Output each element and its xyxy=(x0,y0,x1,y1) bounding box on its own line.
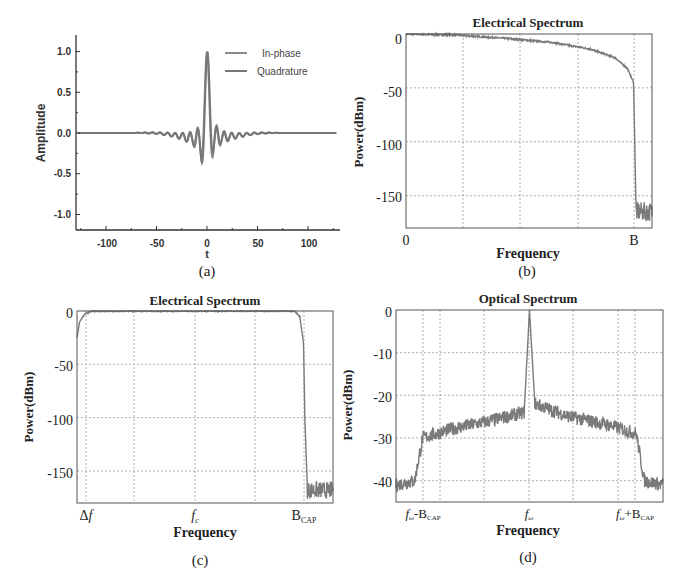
panel-d-xtick-right: fω+BCAP xyxy=(616,506,654,522)
panel-d-grid xyxy=(396,310,663,502)
panel-b-title: Electrical Spectrum xyxy=(473,15,584,30)
panel-c-xtick-fc: fc xyxy=(191,508,199,525)
panel-c-xlabel: Frequency xyxy=(173,525,237,540)
panel-b-ytick: -150 xyxy=(376,190,402,205)
panel-a-xtick: 50 xyxy=(252,238,264,249)
panel-a-ytick: -0.5 xyxy=(54,168,72,179)
panel-d-traces xyxy=(396,310,663,491)
panel-b-ytick: 0 xyxy=(395,32,402,47)
panel-a-ylabel: Amplitude xyxy=(34,103,48,162)
panel-c-ytick: -100 xyxy=(47,413,73,428)
panel-c-frame xyxy=(77,311,333,503)
panel-a-caption: (a) xyxy=(199,263,216,280)
panel-d-xtick-left: fω-BCAP xyxy=(405,506,440,522)
panel-b-ylabel: Power(dBm) xyxy=(351,97,366,168)
panel-b-xtick-b: B xyxy=(629,233,638,248)
panel-d-ytick: -20 xyxy=(373,390,392,405)
panel-b-xlabel: Frequency xyxy=(496,246,560,261)
panel-b-traces xyxy=(406,34,652,221)
panel-d-ylabel: Power(dBm) xyxy=(340,370,355,441)
figure: 1.0 0.5 0.0 -0.5 -1.0 -100 -50 0 50 100 … xyxy=(0,0,687,581)
panel-a-ytick: -1.0 xyxy=(54,209,72,220)
panel-b-xtick-0: 0 xyxy=(403,233,410,248)
panel-d: Optical Spectrum 0 -10 -20 -30 -40 fω-BC… xyxy=(340,291,663,566)
panel-c-ytick: -50 xyxy=(54,359,73,374)
panel-a-legend: In-phase Quadrature xyxy=(225,48,308,77)
spectrum-trace xyxy=(396,310,663,491)
panel-a-xtick: 100 xyxy=(301,238,318,249)
panel-c-title: Electrical Spectrum xyxy=(150,293,261,308)
panel-c-traces xyxy=(77,311,333,499)
spectrum-trace xyxy=(77,311,333,499)
legend-label-in-phase: In-phase xyxy=(262,48,301,59)
panel-a-xtick: -50 xyxy=(150,238,165,249)
panel-d-ytick: -40 xyxy=(373,475,392,490)
panel-b-ytick: -50 xyxy=(383,85,402,100)
panel-d-ytick: -30 xyxy=(373,432,392,447)
panel-c-ytick: -150 xyxy=(47,466,73,481)
panel-a-xlabel: t xyxy=(205,248,209,260)
panel-b-grid xyxy=(406,34,652,228)
panel-c-grid xyxy=(77,311,333,503)
panel-b: Electrical Spectrum 0 -50 -100 -150 0 B … xyxy=(351,15,652,280)
panel-c: Electrical Spectrum 0 -50 -100 -150 Δf f… xyxy=(21,293,333,569)
panel-a-ytick: 0.0 xyxy=(57,128,71,139)
panel-c-xtick-delta-f: Δf xyxy=(80,508,95,523)
panel-a-ytick: 0.5 xyxy=(57,87,71,98)
panel-d-caption: (d) xyxy=(519,549,537,566)
panel-c-ytick: 0 xyxy=(66,306,73,321)
panel-d-xtick-center: fω xyxy=(525,506,534,522)
panel-c-xtick-bcap: BCAP xyxy=(292,508,317,525)
panel-d-ytick: 0 xyxy=(385,305,392,320)
legend-label-quadrature: Quadrature xyxy=(257,66,308,77)
panel-a-ytick: 1.0 xyxy=(57,46,71,57)
panel-a-xtick: -100 xyxy=(97,238,117,249)
panel-b-frame xyxy=(406,34,652,228)
panel-a: 1.0 0.5 0.0 -0.5 -1.0 -100 -50 0 50 100 … xyxy=(34,35,340,280)
panel-d-frame xyxy=(396,310,663,502)
panel-c-caption: (c) xyxy=(192,552,209,569)
spectrum-trace xyxy=(406,34,652,221)
panel-d-xlabel: Frequency xyxy=(496,523,560,538)
panel-d-title: Optical Spectrum xyxy=(479,291,578,306)
panel-b-caption: (b) xyxy=(518,263,536,280)
panel-c-ylabel: Power(dBm) xyxy=(21,372,36,443)
panel-b-ytick: -100 xyxy=(376,138,402,153)
panel-d-ytick: -10 xyxy=(373,347,392,362)
